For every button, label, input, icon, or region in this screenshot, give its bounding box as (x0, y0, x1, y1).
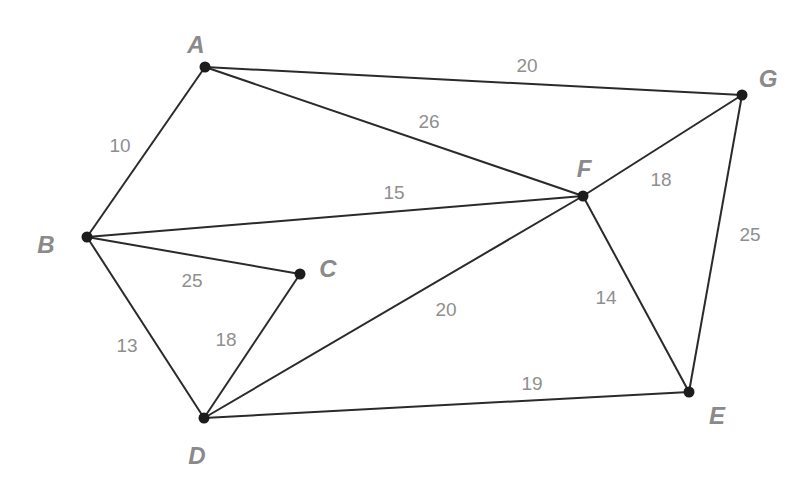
edge-b-d (87, 237, 204, 418)
edge-weight-b-f: 15 (383, 182, 404, 203)
edge-weight-b-d: 13 (116, 335, 137, 356)
node-labels: ABCDEFG (37, 31, 777, 469)
edge-weight-d-e: 19 (521, 373, 542, 394)
node-label-c: C (319, 255, 337, 282)
edge-weight-b-c: 25 (181, 270, 202, 291)
node-b (82, 232, 93, 243)
node-d (199, 413, 210, 424)
edge-d-e (204, 392, 689, 418)
node-label-b: B (37, 231, 54, 258)
edges-layer (87, 67, 742, 418)
node-label-e: E (709, 402, 726, 429)
edge-weight-f-g: 18 (650, 169, 671, 190)
node-label-a: A (186, 31, 204, 58)
node-f (578, 191, 589, 202)
edge-b-c (87, 237, 300, 274)
edge-weight-a-g: 20 (516, 55, 537, 76)
node-label-d: D (188, 442, 205, 469)
edge-weight-g-e: 25 (739, 224, 760, 245)
edge-a-b (87, 67, 205, 237)
nodes-layer (82, 62, 748, 424)
edge-weight-a-f: 26 (418, 111, 439, 132)
node-a (200, 62, 211, 73)
node-g (737, 90, 748, 101)
edge-b-f (87, 196, 583, 237)
edge-weight-c-d: 18 (215, 329, 236, 350)
edge-a-f (205, 67, 583, 196)
node-e (684, 387, 695, 398)
edge-a-g (205, 67, 742, 95)
node-label-g: G (759, 65, 778, 92)
graph-diagram: 102026152513182019181425 ABCDEFG (0, 0, 806, 477)
edge-g-e (689, 95, 742, 392)
edge-weight-a-b: 10 (109, 135, 130, 156)
node-c (295, 269, 306, 280)
node-label-f: F (577, 155, 593, 182)
edge-weight-d-f: 20 (435, 299, 456, 320)
edge-weight-f-e: 14 (595, 287, 617, 308)
